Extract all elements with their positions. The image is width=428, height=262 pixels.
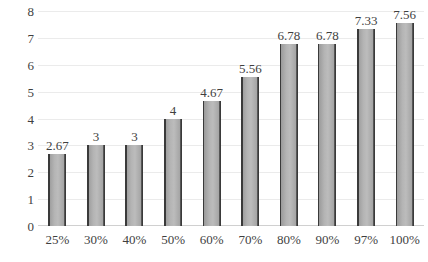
x-axis-tick-label: 97%	[354, 232, 378, 247]
bar-value-label: 7.33	[355, 14, 378, 27]
y-axis-tick-label: 5	[10, 85, 34, 98]
y-axis-tick-label: 2	[10, 166, 34, 179]
bar[interactable]	[357, 29, 375, 226]
bar[interactable]	[203, 101, 221, 227]
bar-slot[interactable]: 4.67	[192, 11, 231, 226]
x-axis-tick-label: 80%	[277, 232, 301, 247]
bar[interactable]	[87, 145, 105, 226]
bar-value-label: 6.78	[278, 29, 301, 42]
bar[interactable]	[125, 145, 143, 226]
x-axis-labels: 25%30%40%50%60%70%80%90%97%100%	[38, 232, 424, 252]
bar-slot[interactable]: 3	[77, 11, 116, 226]
x-axis-tick-label: 100%	[390, 232, 420, 247]
y-axis-tick-label: 0	[10, 220, 34, 233]
x-axis-tick-label: 50%	[161, 232, 185, 247]
y-axis-tick-label: 1	[10, 193, 34, 206]
bar[interactable]	[164, 119, 182, 227]
bar[interactable]	[318, 44, 336, 226]
bar[interactable]	[396, 23, 414, 226]
bar-value-label: 3	[131, 130, 138, 143]
bar-slot[interactable]: 3	[115, 11, 154, 226]
plot-area: 2.673344.675.566.786.787.337.56	[38, 11, 424, 226]
y-axis-tick-label: 6	[10, 58, 34, 71]
bar-value-label: 2.67	[46, 139, 69, 152]
bar-value-label: 5.56	[239, 62, 262, 75]
bar-chart: 012345678 2.673344.675.566.786.787.337.5…	[0, 0, 428, 262]
bar-slot[interactable]: 6.78	[308, 11, 347, 226]
x-axis-tick-label: 25%	[45, 232, 69, 247]
x-axis-tick-label: 60%	[200, 232, 224, 247]
y-axis-tick-label: 3	[10, 139, 34, 152]
bar-slot[interactable]: 4	[154, 11, 193, 226]
bar[interactable]	[280, 44, 298, 226]
bar-slot[interactable]: 2.67	[38, 11, 77, 226]
bar-slot[interactable]: 6.78	[270, 11, 309, 226]
x-axis-tick-label: 30%	[84, 232, 108, 247]
y-axis-tick-label: 7	[10, 31, 34, 44]
y-axis-tick-label: 8	[10, 5, 34, 18]
y-axis-tick-label: 4	[10, 112, 34, 125]
bar-value-label: 4	[170, 104, 177, 117]
bar-slot[interactable]: 5.56	[231, 11, 270, 226]
bar[interactable]	[48, 154, 66, 226]
x-axis-tick-label: 40%	[123, 232, 147, 247]
bar[interactable]	[241, 77, 259, 226]
x-axis-tick-label: 70%	[238, 232, 262, 247]
bar-value-label: 6.78	[316, 29, 339, 42]
bar-slot[interactable]: 7.33	[347, 11, 386, 226]
x-axis-tick-label: 90%	[316, 232, 340, 247]
bar-value-label: 3	[93, 130, 100, 143]
bar-value-label: 4.67	[200, 86, 223, 99]
bar-value-label: 7.56	[393, 8, 416, 21]
bar-slot[interactable]: 7.56	[385, 11, 424, 226]
